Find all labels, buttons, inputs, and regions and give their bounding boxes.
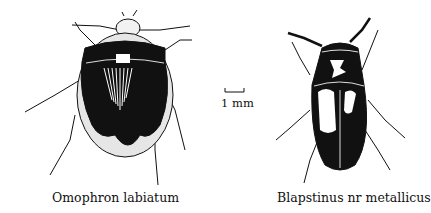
- caption-blapstinus: Blapstinus nr metallicus: [277, 190, 431, 205]
- blapstinus-beetle-drawing: [276, 18, 405, 183]
- scale-bar: [225, 88, 244, 92]
- scale-bar-label: 1 mm: [221, 96, 254, 110]
- caption-omophron: Omophron labiatum: [52, 190, 179, 205]
- omophron-beetle-drawing: [25, 10, 192, 185]
- beetle-illustration: [0, 0, 431, 213]
